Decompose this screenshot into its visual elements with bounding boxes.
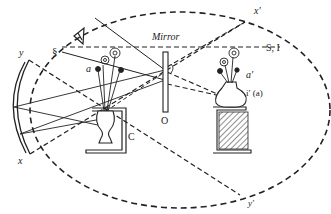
s-i-label: S, I (266, 42, 280, 53)
eye-icon (74, 28, 84, 44)
optics-diagram: Mirror O S, I a a′ i′ (a) C x x′ y y′ § (0, 0, 331, 214)
a-label: a (86, 63, 91, 74)
flower-bouquet-image-icon (218, 48, 240, 83)
o-label: O (161, 115, 168, 126)
x-prime-label: x′ (253, 5, 261, 16)
i-prime-a-label: i′ (a) (246, 88, 263, 98)
ray-top (95, 18, 165, 70)
line-y-yprime (29, 60, 240, 195)
vase-image-icon (216, 82, 247, 107)
hatched-stand-icon (213, 107, 251, 153)
plane-mirror-icon (163, 52, 168, 112)
y-prime-label: y′ (247, 198, 255, 208)
line-x-xprime (30, 22, 245, 154)
s-symbol-label: § (52, 45, 58, 57)
angle-arc (171, 64, 173, 73)
field-of-view-ellipse (30, 12, 330, 208)
y-label: y (18, 47, 24, 58)
a-prime-label: a′ (246, 69, 254, 80)
c-label: C (128, 131, 135, 142)
x-label: x (17, 155, 23, 166)
flower-bouquet-icon (96, 48, 124, 111)
vase-icon (97, 111, 115, 143)
mirror-label: Mirror (151, 31, 180, 42)
